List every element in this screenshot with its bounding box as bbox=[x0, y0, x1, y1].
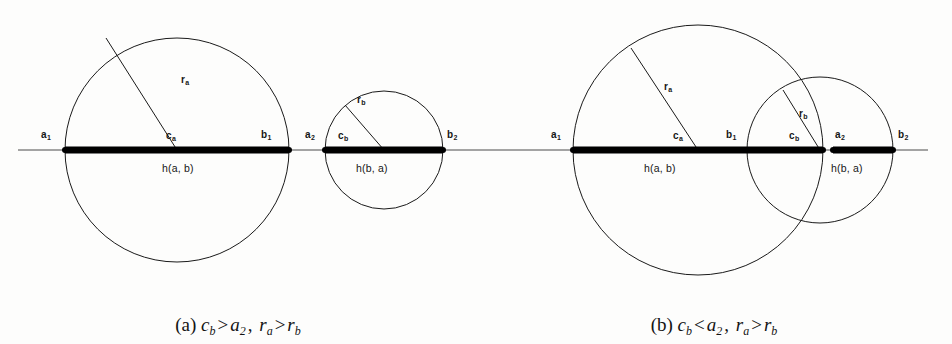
label-b1: b1 bbox=[726, 130, 736, 140]
radius-b-line bbox=[345, 105, 384, 150]
caption-b-ra: ra bbox=[736, 314, 749, 335]
radius-a-line bbox=[631, 48, 698, 150]
label-ra: ra bbox=[181, 75, 189, 85]
caption-b-cb: cb bbox=[678, 314, 692, 335]
label-a2: a2 bbox=[305, 130, 315, 140]
label-a2: a2 bbox=[835, 130, 845, 140]
endpoint-a1 bbox=[62, 147, 68, 153]
panel-a-drawing bbox=[0, 0, 476, 300]
caption-a-ra: ra bbox=[259, 314, 272, 335]
panel-a: a1 ca b1 a2 cb b2 ra rb h(a, b) h(b, a) … bbox=[0, 0, 476, 344]
caption-a-a2: a2 bbox=[230, 314, 246, 335]
caption-a: (a) cb>a2, ra>rb bbox=[0, 314, 476, 336]
label-hba: h(b, a) bbox=[831, 163, 863, 174]
label-hab: h(a, b) bbox=[644, 163, 676, 174]
caption-b-index: (b) bbox=[651, 314, 673, 335]
endpoint-b2 bbox=[440, 147, 446, 153]
panel-b: a1 ca b1 cb a2 b2 ra rb h(a, b) h(b, a) … bbox=[476, 0, 952, 344]
caption-b: (b) cb<a2, ra>rb bbox=[476, 314, 952, 336]
label-ra: ra bbox=[664, 82, 672, 92]
label-b2: b2 bbox=[898, 130, 908, 140]
caption-a-rb: rb bbox=[287, 314, 300, 335]
caption-a-cb: cb bbox=[201, 314, 215, 335]
label-b1: b1 bbox=[261, 130, 271, 140]
endpoint-a2 bbox=[830, 147, 836, 153]
label-rb: rb bbox=[799, 109, 807, 119]
caption-b-a2: a2 bbox=[707, 314, 723, 335]
endpoint-a1 bbox=[570, 147, 576, 153]
panel-b-drawing bbox=[476, 0, 952, 300]
radius-b-line bbox=[783, 90, 820, 150]
label-b2: b2 bbox=[447, 130, 457, 140]
caption-a-index: (a) bbox=[175, 314, 196, 335]
label-cb: cb bbox=[789, 131, 799, 141]
endpoint-b1 bbox=[820, 147, 826, 153]
label-hba: h(b, a) bbox=[356, 163, 388, 174]
label-ca: ca bbox=[166, 131, 176, 141]
label-cb: cb bbox=[338, 131, 348, 141]
endpoint-b2 bbox=[890, 147, 896, 153]
endpoint-a2 bbox=[322, 147, 328, 153]
caption-b-rb: rb bbox=[764, 314, 777, 335]
label-rb: rb bbox=[357, 95, 365, 105]
label-ca: ca bbox=[673, 131, 683, 141]
label-a1: a1 bbox=[551, 130, 561, 140]
figure-container: a1 ca b1 a2 cb b2 ra rb h(a, b) h(b, a) … bbox=[0, 0, 952, 344]
label-a1: a1 bbox=[41, 130, 51, 140]
endpoint-b1 bbox=[286, 147, 292, 153]
label-hab: h(a, b) bbox=[162, 163, 194, 174]
